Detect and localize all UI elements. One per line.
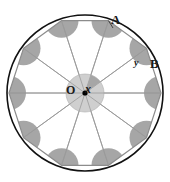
- vertex-label-b: B: [150, 57, 159, 70]
- radius-line: [85, 48, 146, 93]
- geometry-figure: A B O x y: [0, 0, 170, 182]
- radius-line: [85, 93, 146, 138]
- center-label-o: O: [66, 84, 75, 96]
- radius-line: [24, 93, 85, 138]
- central-angle-label-x: x: [85, 83, 91, 95]
- vertex-label-a: A: [111, 13, 120, 26]
- interior-angle-label-y: y: [134, 58, 138, 68]
- radius-line: [24, 48, 85, 93]
